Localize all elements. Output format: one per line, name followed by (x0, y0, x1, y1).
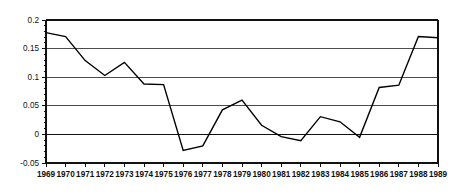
chart-plot-area: 0.20.150.10.050-0.05 1969197019711972197… (0, 0, 452, 196)
x-axis-tick-label: 1979 (233, 170, 252, 179)
x-tick-marks-group (46, 163, 438, 167)
line-chart: 0.20.150.10.050-0.05 1969197019711972197… (0, 0, 452, 196)
x-axis-tick-label: 1971 (76, 170, 95, 179)
x-axis-tick-label: 1989 (429, 170, 448, 179)
x-axis-tick-label: 1973 (115, 170, 134, 179)
x-axis-tick-label: 1982 (292, 170, 311, 179)
x-axis-tick-label: 1988 (409, 170, 428, 179)
x-axis-tick-label: 1972 (96, 170, 115, 179)
x-axis-tick-label: 1976 (174, 170, 193, 179)
x-axis-tick-label: 1974 (135, 170, 154, 179)
y-axis-tick-label: 0.05 (23, 101, 39, 110)
x-axis-tick-label: 1981 (272, 170, 291, 179)
chart-background (0, 0, 452, 196)
y-axis-tick-label: -0.05 (20, 159, 39, 168)
x-axis-tick-label: 1983 (311, 170, 330, 179)
x-axis-tick-label: 1975 (154, 170, 173, 179)
x-axis-tick-label: 1970 (56, 170, 75, 179)
y-axis-tick-label: 0.15 (23, 44, 39, 53)
x-axis-labels-group: 1969197019711972197319741975197619771978… (37, 170, 448, 179)
x-axis-tick-label: 1985 (350, 170, 369, 179)
x-axis-tick-label: 1984 (331, 170, 350, 179)
x-axis-tick-label: 1978 (213, 170, 232, 179)
x-axis-tick-label: 1969 (37, 170, 56, 179)
y-axis-tick-label: 0 (34, 130, 39, 139)
x-axis-tick-label: 1980 (252, 170, 271, 179)
x-axis-tick-label: 1987 (390, 170, 409, 179)
y-axis-tick-label: 0.1 (28, 73, 40, 82)
x-axis-tick-label: 1977 (194, 170, 213, 179)
y-axis-tick-label: 0.2 (28, 16, 40, 25)
x-axis-tick-label: 1986 (370, 170, 389, 179)
